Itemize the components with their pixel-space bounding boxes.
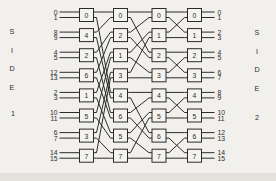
switch-label: 2 xyxy=(193,52,197,59)
side2-letter-D: D xyxy=(254,65,259,74)
switch-label: 0 xyxy=(119,12,123,19)
switch-label: 1 xyxy=(157,32,161,39)
switch-label: 4 xyxy=(85,32,89,39)
port-label-right-1: 1 xyxy=(218,14,222,21)
switch-label: 7 xyxy=(193,153,197,160)
switch-label: 2 xyxy=(85,52,89,59)
switch-label: 3 xyxy=(193,72,197,79)
switch-label: 3 xyxy=(85,133,89,140)
port-label-left-3: 3 xyxy=(54,94,58,101)
side2-letter-E: E xyxy=(255,84,260,93)
scan-shadow xyxy=(0,173,276,181)
switch-label: 5 xyxy=(119,133,123,140)
switch-label: 6 xyxy=(119,113,123,120)
switch-label: 4 xyxy=(119,92,123,99)
switch-label: 4 xyxy=(157,92,161,99)
port-label-left-11: 11 xyxy=(50,115,57,122)
side1-letter-I: I xyxy=(11,46,13,55)
side2-letter-S: S xyxy=(255,28,260,37)
switch-label: 6 xyxy=(157,133,161,140)
switch-label: 4 xyxy=(193,92,197,99)
switch-label: 6 xyxy=(85,72,89,79)
port-label-left-13: 13 xyxy=(50,74,58,81)
side2-letter-I: I xyxy=(256,47,258,56)
port-label-left-7: 7 xyxy=(54,135,58,142)
switch-label: 2 xyxy=(119,32,123,39)
switch-label: 7 xyxy=(119,153,123,160)
port-label-right-5: 5 xyxy=(218,54,222,61)
port-label-right-15: 15 xyxy=(218,155,226,162)
port-label-left-1: 1 xyxy=(54,14,58,21)
port-label-left-5: 5 xyxy=(54,54,58,61)
switch-label: 0 xyxy=(157,12,161,19)
switch-label: 0 xyxy=(85,12,89,19)
switch-label: 6 xyxy=(193,133,197,140)
butterfly-network-figure: 0011829344551261372839101011116127131414… xyxy=(0,0,276,181)
switch-label: 7 xyxy=(85,153,89,160)
switch-label: 3 xyxy=(157,72,161,79)
port-label-right-7: 7 xyxy=(218,74,222,81)
port-label-left-9: 9 xyxy=(54,34,58,41)
switch-label: 0 xyxy=(193,12,197,19)
switch-label: 2 xyxy=(157,52,161,59)
port-label-left-15: 15 xyxy=(50,155,58,162)
port-label-right-11: 11 xyxy=(218,115,225,122)
switch-label: 5 xyxy=(85,113,89,120)
switch-label: 1 xyxy=(119,52,123,59)
side1-letter-D: D xyxy=(9,64,14,73)
switch-label: 3 xyxy=(119,72,123,79)
side1-letter-S: S xyxy=(10,27,15,36)
switch-label: 5 xyxy=(157,113,161,120)
switch-label: 5 xyxy=(193,113,197,120)
port-label-right-13: 13 xyxy=(218,135,226,142)
switch-label: 7 xyxy=(157,153,161,160)
side1-number: 1 xyxy=(11,109,15,118)
port-label-right-3: 3 xyxy=(218,34,222,41)
paper-background xyxy=(0,0,276,181)
side2-number: 2 xyxy=(255,113,259,122)
port-label-right-9: 9 xyxy=(218,94,222,101)
side1-letter-E: E xyxy=(10,83,15,92)
switch-label: 1 xyxy=(85,92,89,99)
switch-label: 1 xyxy=(193,32,197,39)
